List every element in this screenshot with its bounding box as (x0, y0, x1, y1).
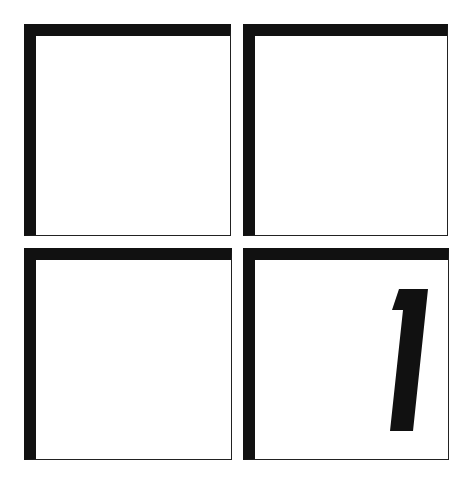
tile-number: 1 (255, 260, 256, 261)
tile-content (36, 260, 37, 261)
tile-bottom-right: 1 (243, 248, 449, 460)
tile-top-left (24, 24, 231, 236)
tile-bottom-left (24, 248, 232, 460)
tile-content (255, 36, 256, 37)
tile-content (36, 36, 37, 37)
tile-top-right (243, 24, 448, 236)
window-grid-icon: 1 (0, 0, 471, 487)
